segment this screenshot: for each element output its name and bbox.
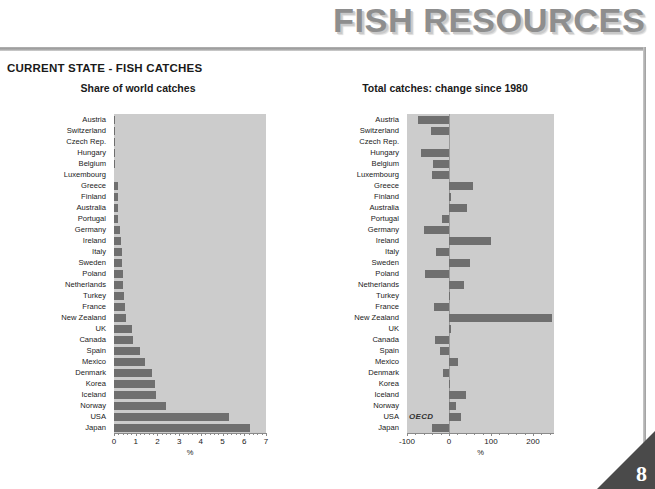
bar-row	[407, 301, 554, 312]
category-label: Belgium	[0, 158, 110, 169]
bar	[114, 138, 115, 146]
axis-minor-tick	[153, 433, 154, 435]
axis-minor-tick	[197, 433, 198, 435]
category-label: Mexico	[0, 356, 110, 367]
category-label: Czech Rep.	[300, 136, 403, 147]
category-label: Hungary	[300, 147, 403, 158]
axis-tick-label: 4	[199, 437, 203, 446]
bar	[433, 160, 449, 168]
bar	[114, 336, 133, 344]
bar	[114, 424, 250, 432]
category-label: USA	[300, 411, 403, 422]
bar-row	[114, 169, 266, 180]
bar-row	[114, 389, 266, 400]
axis-minor-tick	[162, 433, 163, 435]
bar-row	[114, 235, 266, 246]
category-label: Portugal	[300, 213, 403, 224]
axis-minor-tick	[499, 433, 500, 435]
category-label: Turkey	[0, 290, 110, 301]
value-axis-left: 01234567%	[114, 433, 266, 459]
axis-minor-tick	[227, 433, 228, 435]
axis-minor-tick	[201, 433, 202, 435]
bar-row	[407, 213, 554, 224]
bar-row	[114, 158, 266, 169]
axis-unit-label: %	[477, 448, 484, 457]
axis-minor-tick	[175, 433, 176, 435]
bar-row	[114, 180, 266, 191]
axis-minor-tick	[449, 433, 450, 435]
category-label: Turkey	[300, 290, 403, 301]
axis-minor-tick	[131, 433, 132, 435]
category-label: Denmark	[300, 367, 403, 378]
axis-line-right	[407, 433, 554, 434]
axis-minor-tick	[415, 433, 416, 435]
bar	[449, 237, 491, 245]
chart-title-left: Share of world catches	[0, 82, 276, 94]
category-label: Greece	[300, 180, 403, 191]
axis-minor-tick	[432, 433, 433, 435]
axis-minor-tick	[483, 433, 484, 435]
bar	[421, 149, 449, 157]
category-label: Australia	[300, 202, 403, 213]
category-label: Canada	[0, 334, 110, 345]
category-label: Austria	[300, 114, 403, 125]
axis-minor-tick	[244, 433, 245, 435]
bar-series-right	[407, 114, 554, 433]
category-label: Spain	[0, 345, 110, 356]
category-label: USA	[0, 411, 110, 422]
bar	[114, 182, 118, 190]
bar	[449, 281, 464, 289]
bar-row	[114, 290, 266, 301]
page-number: 8	[636, 461, 647, 487]
bar-row	[407, 323, 554, 334]
axis-minor-tick	[240, 433, 241, 435]
category-label: Portugal	[0, 213, 110, 224]
axis-tick-label: 0	[447, 437, 451, 446]
category-label: Denmark	[0, 367, 110, 378]
category-label: Norway	[300, 400, 403, 411]
bar-row	[114, 268, 266, 279]
bar	[114, 259, 122, 267]
bar-row	[114, 257, 266, 268]
category-label: Poland	[0, 268, 110, 279]
category-label: Sweden	[0, 257, 110, 268]
axis-minor-tick	[474, 433, 475, 435]
bar-row	[114, 136, 266, 147]
bar	[440, 347, 449, 355]
bar	[449, 325, 451, 333]
bar-row	[407, 257, 554, 268]
category-label: UK	[300, 323, 403, 334]
bar-row	[407, 378, 554, 389]
banner-title: FISH RESOURCES	[333, 2, 645, 40]
category-label: Korea	[300, 378, 403, 389]
bar	[114, 160, 115, 168]
bar	[114, 215, 118, 223]
category-label: Italy	[300, 246, 403, 257]
bar-row	[407, 389, 554, 400]
axis-minor-tick	[149, 433, 150, 435]
bar	[114, 226, 120, 234]
bar	[436, 248, 449, 256]
category-label: Switzerland	[0, 125, 110, 136]
bar-row	[407, 169, 554, 180]
bar	[449, 402, 456, 410]
bar	[114, 325, 132, 333]
axis-tick-label: 7	[264, 437, 268, 446]
axis-minor-tick	[407, 433, 408, 435]
category-label: Japan	[0, 422, 110, 433]
category-label: Italy	[0, 246, 110, 257]
category-label: Finland	[300, 191, 403, 202]
bar	[114, 127, 115, 135]
category-label: Norway	[0, 400, 110, 411]
bar	[114, 204, 118, 212]
axis-minor-tick	[127, 433, 128, 435]
category-label: Belgium	[300, 158, 403, 169]
bar	[114, 149, 115, 157]
axis-minor-tick	[231, 433, 232, 435]
category-label: Canada	[300, 334, 403, 345]
axis-tick-label: 5	[220, 437, 224, 446]
bar	[114, 347, 140, 355]
bar	[114, 193, 118, 201]
bar-row	[114, 400, 266, 411]
bar	[449, 292, 450, 300]
